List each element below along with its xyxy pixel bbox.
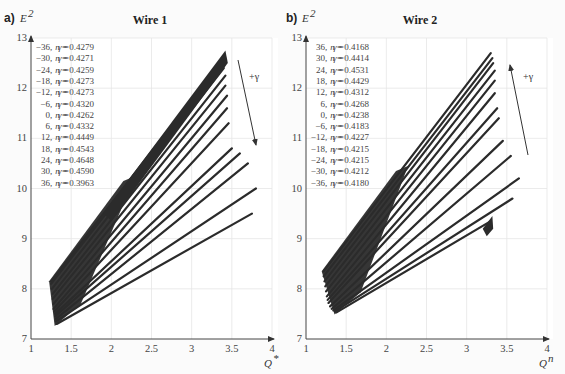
legend-item: γ =18,n = 0.4543 — [41, 144, 95, 154]
legend: γ =−36,n = 0.4279γ =−30,n = 0.4271γ =−24… — [36, 42, 95, 188]
x-tick-label: 3 — [189, 343, 194, 354]
x-tick-label: 2 — [384, 343, 389, 354]
legend-item: γ =−30,n = 0.4212 — [311, 166, 369, 176]
y-axis-label: E — [19, 12, 27, 24]
legend-item: γ =30,n = 0.4590 — [41, 166, 95, 176]
x-tick-label: 2.5 — [145, 343, 158, 354]
figure: 11.522.533.5478910111213a)E2Wire 1Q*γ =−… — [0, 0, 565, 374]
x-tick-label: 3.5 — [500, 343, 513, 354]
chart-title: Wire 1 — [133, 13, 168, 27]
y-tick-label: 11 — [292, 132, 302, 143]
y-axis-label-exponent: 2 — [28, 7, 34, 19]
x-tick-label: 3.5 — [225, 343, 238, 354]
y-tick-label: 10 — [292, 183, 303, 194]
legend-item: γ =24,n = 0.4531 — [316, 65, 369, 75]
x-axis-label-superscript: n — [548, 352, 554, 364]
x-tick-label: 2 — [109, 343, 114, 354]
panel-label: b) — [286, 11, 297, 25]
y-tick-label: 7 — [22, 333, 27, 344]
panel-b: 11.522.533.5478910111213b)E2Wire 2Qnγ =3… — [286, 7, 554, 369]
x-axis-label: Q — [539, 357, 547, 369]
legend-item: γ =24,n = 0.4648 — [41, 155, 95, 165]
x-tick-label: 1 — [303, 343, 308, 354]
legend-item: γ =−24,n = 0.4215 — [311, 155, 370, 165]
x-tick-label: 1.5 — [65, 343, 78, 354]
chart-title: Wire 2 — [403, 13, 438, 27]
y-tick-label: 8 — [22, 283, 27, 294]
y-tick-label: 9 — [297, 233, 302, 244]
legend-item: γ =−12,n = 0.4227 — [311, 132, 370, 142]
x-tick-label: 3 — [464, 343, 469, 354]
y-tick-label: 11 — [17, 132, 27, 143]
legend-item: γ =−30,n = 0.4271 — [36, 53, 94, 63]
chart-canvas: 11.522.533.5478910111213a)E2Wire 1Q*γ =−… — [0, 0, 565, 374]
legend-item: γ =−36,n = 0.4180 — [311, 178, 370, 188]
legend-item: γ =−36,n = 0.4279 — [36, 42, 95, 52]
x-tick-label: 1.5 — [340, 343, 353, 354]
legend-item: γ =12,n = 0.4449 — [41, 132, 95, 142]
gamma-annotation: +γ — [523, 71, 534, 82]
y-tick-label: 8 — [297, 283, 302, 294]
gamma-annotation: +γ — [249, 71, 260, 82]
legend-item: γ =36,n = 0.3963 — [41, 178, 95, 188]
panel-a: 11.522.533.5478910111213a)E2Wire 1Q*γ =−… — [4, 7, 279, 369]
y-tick-label: 13 — [17, 32, 28, 43]
y-axis-label-exponent: 2 — [310, 7, 316, 19]
legend-item: γ =18,n = 0.4429 — [316, 76, 370, 86]
panel-label: a) — [4, 11, 15, 25]
x-axis-label: Q — [264, 357, 272, 369]
y-tick-label: 9 — [22, 233, 27, 244]
y-axis-label: E — [301, 12, 309, 24]
legend-item: γ =30,n = 0.4414 — [316, 53, 370, 63]
y-tick-label: 7 — [297, 333, 302, 344]
legend-item: γ =−6,n = 0.4320 — [40, 99, 94, 109]
x-tick-label: 2.5 — [420, 343, 433, 354]
legend-item: γ =−18,n = 0.4215 — [311, 144, 370, 154]
y-tick-label: 12 — [292, 82, 303, 93]
y-tick-label: 12 — [17, 82, 28, 93]
legend-item: γ =−18,n = 0.4273 — [36, 76, 95, 86]
legend-item: γ =−12,n = 0.4273 — [36, 87, 95, 97]
x-tick-label: 1 — [28, 343, 33, 354]
legend-item: γ =12,n = 0.4312 — [316, 87, 369, 97]
legend-item: γ =36,n = 0.4168 — [316, 42, 370, 52]
legend: γ =36,n = 0.4168γ =30,n = 0.4414γ =24,n … — [311, 42, 370, 188]
legend-item: γ =−6,n = 0.4183 — [315, 121, 369, 131]
x-axis-label-superscript: * — [273, 352, 279, 364]
y-tick-label: 13 — [292, 32, 303, 43]
legend-item: γ =−24,n = 0.4259 — [36, 65, 95, 75]
y-tick-label: 10 — [17, 183, 28, 194]
